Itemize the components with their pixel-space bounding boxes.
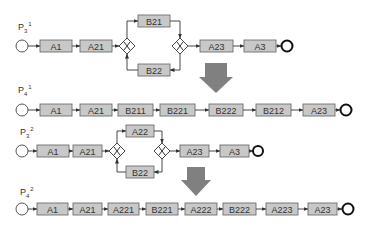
- svg-text:B222: B222: [215, 106, 236, 116]
- task-a1[interactable]: A1: [37, 145, 69, 157]
- task-a21[interactable]: A21: [73, 203, 102, 215]
- task-a21[interactable]: A21: [80, 104, 112, 116]
- start-event[interactable]: [16, 203, 28, 215]
- svg-text:A23: A23: [314, 205, 330, 215]
- task-a1[interactable]: A1: [37, 203, 68, 215]
- svg-text:A1: A1: [50, 42, 61, 52]
- svg-text:A21: A21: [79, 147, 95, 157]
- svg-text:A1: A1: [47, 205, 58, 215]
- process-p3-1: P31 A1 A21 B21 B22 A23 A3: [16, 15, 293, 76]
- start-event[interactable]: [16, 40, 28, 52]
- svg-text:B221: B221: [167, 106, 188, 116]
- end-event[interactable]: [341, 105, 352, 116]
- task-a23[interactable]: A23: [200, 40, 233, 52]
- svg-text:A21: A21: [88, 42, 104, 52]
- down-arrow-icon: [199, 63, 233, 93]
- xor-gateway-join[interactable]: [172, 38, 188, 54]
- task-b22[interactable]: B22: [138, 64, 170, 76]
- process-label-p3-1: P31: [18, 21, 32, 34]
- process-diagram: P31 A1 A21 B21 B22 A23 A3 P41 A1: [0, 0, 370, 229]
- task-b222[interactable]: B222: [223, 203, 256, 215]
- process-label-p3-2: P32: [20, 126, 34, 139]
- svg-text:A21: A21: [79, 205, 95, 215]
- svg-text:B222: B222: [229, 205, 250, 215]
- svg-text:B212: B212: [263, 106, 284, 116]
- task-a3[interactable]: A3: [220, 145, 249, 157]
- svg-text:A1: A1: [47, 147, 58, 157]
- svg-text:A3: A3: [229, 147, 240, 157]
- task-a23[interactable]: A23: [180, 145, 209, 157]
- process-label-p4-1: P41: [18, 84, 32, 97]
- svg-text:A223: A223: [271, 205, 292, 215]
- process-p4-2: P42 A1 A21 A221 B221 A222 B222 A223 A23: [16, 186, 354, 215]
- svg-text:A23: A23: [311, 106, 327, 116]
- task-b211[interactable]: B211: [118, 104, 153, 116]
- svg-text:B211: B211: [125, 106, 145, 116]
- svg-text:A1: A1: [50, 106, 61, 116]
- end-event[interactable]: [343, 204, 354, 215]
- task-a21[interactable]: A21: [73, 145, 102, 157]
- task-a23[interactable]: A23: [303, 104, 335, 116]
- xor-gateway-split[interactable]: [109, 143, 125, 159]
- task-a3[interactable]: A3: [244, 40, 276, 52]
- svg-text:A222: A222: [190, 205, 211, 215]
- task-b221[interactable]: B221: [160, 104, 195, 116]
- svg-text:B21: B21: [146, 17, 162, 27]
- svg-text:B22: B22: [132, 168, 148, 178]
- svg-text:A3: A3: [254, 42, 265, 52]
- task-a22[interactable]: A22: [126, 125, 154, 137]
- svg-text:A21: A21: [88, 106, 104, 116]
- task-a23[interactable]: A23: [308, 203, 337, 215]
- end-event[interactable]: [282, 41, 293, 52]
- svg-text:B221: B221: [151, 205, 172, 215]
- xor-gateway-join[interactable]: [154, 143, 170, 159]
- start-event[interactable]: [16, 104, 28, 116]
- task-b21[interactable]: B21: [138, 15, 170, 27]
- svg-text:B22: B22: [146, 66, 162, 76]
- svg-text:A221: A221: [113, 205, 134, 215]
- down-arrow-icon: [181, 167, 211, 196]
- process-p4-1: P41 A1 A21 B211 B221 B222 B212 A23: [16, 84, 352, 116]
- svg-text:A22: A22: [132, 127, 148, 137]
- task-a1[interactable]: A1: [40, 40, 72, 52]
- process-p3-2: P32 A1 A21 A22 B22 A23 A3: [16, 125, 263, 178]
- svg-text:A23: A23: [208, 42, 224, 52]
- start-event[interactable]: [16, 145, 28, 157]
- task-a1[interactable]: A1: [40, 104, 72, 116]
- task-b212[interactable]: B212: [256, 104, 291, 116]
- task-a223[interactable]: A223: [266, 203, 298, 215]
- task-b222[interactable]: B222: [209, 104, 243, 116]
- task-b221[interactable]: B221: [146, 203, 178, 215]
- xor-gateway-split[interactable]: [119, 38, 135, 54]
- svg-text:A23: A23: [186, 147, 202, 157]
- task-a222[interactable]: A222: [185, 203, 217, 215]
- task-b22[interactable]: B22: [126, 166, 154, 178]
- task-a221[interactable]: A221: [108, 203, 139, 215]
- process-label-p4-2: P42: [20, 186, 34, 199]
- task-a21[interactable]: A21: [80, 40, 112, 52]
- end-event[interactable]: [253, 146, 263, 156]
